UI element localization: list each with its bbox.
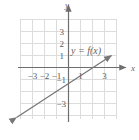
x-tick-label-neg2: −2 (40, 71, 50, 81)
coordinate-plane: −3 −2 −1 1 3 3 2 1 −1 −3 x y y = f(x) (0, 0, 139, 140)
y-axis-label: y (64, 0, 69, 10)
y-tick-label-2: 2 (60, 39, 65, 49)
graph-figure: −3 −2 −1 1 3 3 2 1 −1 −3 x y y = f(x) (0, 0, 139, 140)
y-tick-label-3: 3 (60, 27, 65, 37)
x-tick-label-1: 1 (78, 71, 83, 81)
function-equation-label: y = f(x) (70, 45, 102, 57)
y-tick-label-neg1: −1 (56, 75, 66, 85)
y-tick-label-1: 1 (60, 51, 65, 61)
x-tick-label-neg3: −3 (28, 71, 38, 81)
y-tick-label-neg3: −3 (56, 99, 66, 109)
x-axis-label: x (130, 63, 135, 73)
x-tick-label-3: 3 (102, 71, 107, 81)
